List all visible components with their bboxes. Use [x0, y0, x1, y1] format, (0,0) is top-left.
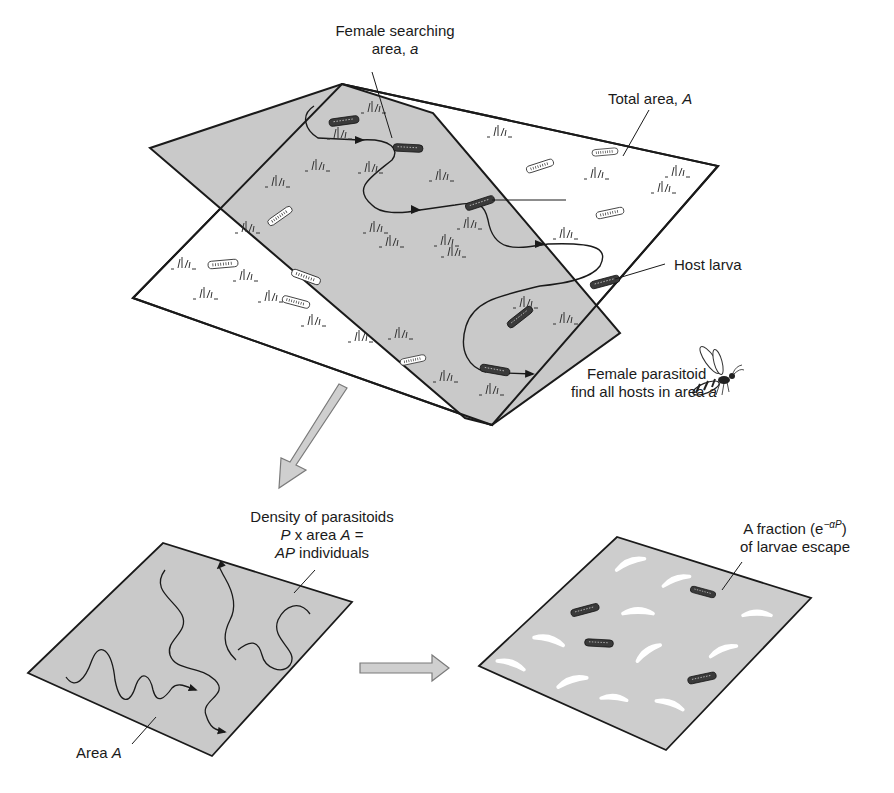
variable-A: A: [341, 526, 351, 543]
label-line: Female parasitoid: [571, 365, 717, 383]
label-line: of larvae escape: [725, 538, 865, 556]
escape-area-plane: [479, 537, 811, 750]
label-line: find all hosts in area a: [571, 383, 717, 401]
variable-a: a: [410, 40, 418, 57]
block-arrow-down-left: [279, 384, 347, 488]
variable-A: A: [682, 90, 692, 107]
label-line: Female searching: [315, 22, 475, 40]
bottom-right-panel: [479, 537, 811, 750]
block-arrow-right: [360, 655, 449, 681]
area-A-plane: [28, 543, 352, 756]
label-text: Area: [76, 744, 112, 761]
parasitoid-search-diagram: Female searching area, a Total area, A H…: [0, 0, 894, 793]
host-larva-icon: [393, 143, 423, 152]
variable-a: a: [709, 383, 717, 400]
label-line: area, a: [315, 40, 475, 58]
female-parasitoid-label: Female parasitoid find all hosts in area…: [571, 365, 717, 401]
variable-A: A: [112, 744, 122, 761]
label-text: find all hosts in area: [571, 383, 709, 400]
female-searching-area-label: Female searching area, a: [315, 22, 475, 58]
label-line: Density of parasitoids: [232, 508, 412, 526]
label-text: individuals: [295, 544, 369, 561]
label-line: AP individuals: [232, 544, 412, 562]
label-line: A fraction (e−αP): [725, 520, 865, 538]
label-line: P x area A =: [232, 526, 412, 544]
label-text: area,: [372, 40, 410, 57]
label-text: =: [351, 526, 364, 543]
label-text: A fraction (e: [743, 520, 823, 537]
exponent: −αP: [823, 519, 841, 530]
total-area-label: Total area, A: [608, 90, 692, 108]
diagram-canvas: [0, 0, 894, 793]
bottom-left-panel: [28, 543, 352, 756]
escaped-larva-icon: [584, 639, 613, 648]
label-text: Total area,: [608, 90, 682, 107]
fraction-escape-label: A fraction (e−αP) of larvae escape: [725, 520, 865, 556]
area-A-label: Area A: [76, 744, 122, 762]
parasitoid-density-label: Density of parasitoids P x area A = AP i…: [232, 508, 412, 562]
label-text: ): [842, 520, 847, 537]
host-larva-label: Host larva: [674, 256, 742, 274]
variable-AP: AP: [275, 544, 295, 561]
label-text: x area: [291, 526, 341, 543]
variable-P: P: [281, 526, 291, 543]
